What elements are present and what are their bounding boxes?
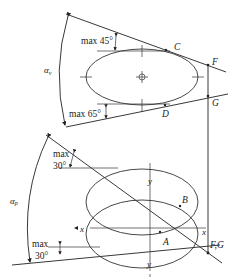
tolerance-diagram: max 45° max 65° αv C D F G y y <box>0 0 238 280</box>
max45-arrow <box>115 36 116 50</box>
point-a-label: A <box>162 237 169 247</box>
point-d-label: D <box>161 109 169 119</box>
max30-top-label-line1: max <box>53 149 70 159</box>
y-axis-top-label: y <box>147 176 152 186</box>
alpha-v-label: αv <box>44 65 52 76</box>
max30-bottom-label-line2: 30° <box>35 251 49 261</box>
max30-top-label-line2: 30° <box>53 161 67 171</box>
point-c-label: C <box>174 42 181 52</box>
top-view: max 45° max 65° αv C D F G <box>44 14 228 127</box>
y-axis-bottom-label: y <box>146 259 151 269</box>
alpha-v-arc <box>59 16 68 125</box>
point-b-label: B <box>182 195 188 205</box>
center-target-icon <box>136 71 148 83</box>
x-axis-left-label: x <box>79 224 84 234</box>
max65-label: max 65° <box>69 109 101 119</box>
x-axis-right-label: x <box>201 227 206 237</box>
bottom-view: y y x x max 30° max 30° αp B A F,G <box>10 135 224 277</box>
max30-bottom-label-line1: max <box>32 239 49 249</box>
x-axis-arrow-icon <box>74 226 78 230</box>
point-f-label: F <box>211 57 218 67</box>
point-fg-label: F,G <box>209 240 224 250</box>
point-g-label: G <box>212 98 219 108</box>
max45-label: max 45° <box>81 36 113 46</box>
lower-ellipse <box>86 200 198 268</box>
alpha-p-label: αp <box>10 196 18 206</box>
